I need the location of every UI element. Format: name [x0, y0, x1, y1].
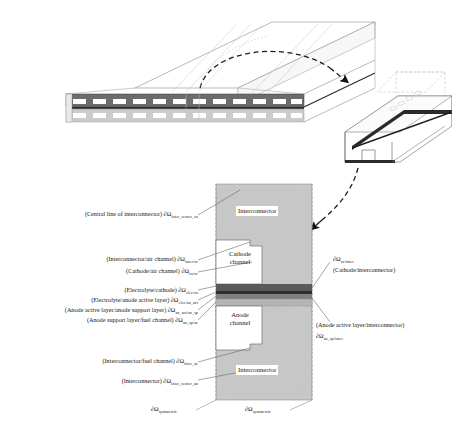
slab-front-left-edge	[66, 88, 135, 94]
label-symbol: ∂Ω	[316, 332, 324, 339]
label-text: (Interconnector/air channel) ∂Ω	[106, 255, 184, 262]
label-subscript: inter_center_an	[171, 381, 198, 386]
boundary-label-ca-inter-symbol: ∂Ωca/inter	[333, 255, 354, 265]
label-text: (Cathode/air channel) ∂Ω	[126, 267, 189, 274]
cross-section-view	[196, 184, 330, 410]
detail-bottom-strip	[345, 160, 395, 163]
label-subscript: ca/inter	[341, 259, 354, 264]
label-subscript: symmetric	[253, 409, 271, 414]
boundary-label-ca-inter-caption: (Cathode/interconnector)	[333, 266, 395, 273]
slab-depth-edge-bottom	[304, 88, 375, 122]
label-text: (Interconnector) ∂Ω	[122, 377, 171, 384]
slab-depth-edge-electrolyte	[304, 73, 375, 107]
label-subscript: inter_ac	[184, 361, 198, 366]
label-symbol: ∂Ω	[333, 255, 341, 262]
boundary-label-ca-cc: (Cathode/air channel) ∂Ωca/cc	[40, 267, 198, 277]
boundary-label-an-sp-inter-caption: (Anode active layer/interconnector)	[316, 321, 404, 328]
anode-channel-line2: channel	[230, 319, 251, 326]
electrolyte-layer	[216, 291, 312, 294]
boundary-label-inter-center-an: (Interconnector) ∂Ωinter_center_an	[60, 377, 198, 387]
boundary-label-an-sp-inter-symbol: ∂Ωan_sp/inter	[316, 332, 343, 342]
slab-left-cap	[66, 94, 72, 122]
label-subscript: inter_center_ca	[171, 214, 198, 219]
label-text: (Central line of interconnector) ∂Ω	[85, 210, 171, 217]
boundary-label-an-sp-ac: (Anode support layer/fuel channel) ∂Ωan_…	[18, 316, 198, 326]
label-subscript: an_act/an_sp	[175, 310, 198, 315]
boundary-label-symmetric-left: ∂Ωsymmetric	[151, 405, 177, 415]
stack-3d-view	[66, 22, 375, 122]
label-subscript: symmetric	[159, 409, 177, 414]
boundary-label-symmetric-right: ∂Ωsymmetric	[245, 405, 271, 415]
unit-cell-3d-detail	[314, 72, 452, 227]
region-label-anode-channel: Anode channel	[219, 311, 261, 327]
label-text: (Anode active layer/anode support layer)…	[65, 306, 176, 313]
label-subscript: inter/cc	[185, 259, 198, 264]
label-subscript: an_sp/ac	[183, 320, 198, 325]
region-label-interconnector-bottom: Interconnector	[236, 365, 278, 375]
label-symbol: ∂Ω	[151, 405, 159, 412]
boundary-label-elec-ca: (Electrolyte/cathode) ∂Ωelec/ca	[28, 286, 198, 296]
label-text: (Electrolyte/anode active layer) ∂Ω	[91, 296, 178, 303]
leader-lines-right	[312, 262, 330, 322]
sofc-figure: Interconnector Cathode channel Anode cha…	[0, 0, 452, 431]
cathode-channel-line1: Cathode	[229, 250, 251, 257]
label-subscript: ca/cc	[189, 271, 198, 276]
label-subscript: elec/an_act	[178, 300, 198, 305]
boundary-label-inter-cc: (Interconnector/air channel) ∂Ωinter/cc	[40, 255, 198, 265]
boundary-label-an-act-an-sp: (Anode active layer/anode support layer)…	[4, 306, 198, 316]
cathode-layer	[216, 284, 312, 291]
boundary-label-inter-ac: (Interconnector/fuel channel) ∂Ωinter_ac	[30, 357, 198, 367]
label-symbol: ∂Ω	[245, 405, 253, 412]
label-text: (Anode support layer/fuel channel) ∂Ω	[87, 316, 183, 323]
anode-channel-line1: Anode	[231, 311, 249, 318]
region-label-interconnector-top: Interconnector	[236, 206, 278, 216]
boundary-label-elec-an-act: (Electrolyte/anode active layer) ∂Ωelec/…	[20, 296, 198, 306]
label-subscript: elec/ca	[186, 290, 198, 295]
cathode-channel-line2: channel	[230, 258, 251, 265]
region-label-cathode-channel: Cathode channel	[219, 250, 261, 266]
callout-arc-bottom	[322, 168, 358, 220]
label-text: (Interconnector/fuel channel) ∂Ω	[102, 357, 184, 364]
detail-construction-box-top	[377, 72, 445, 92]
label-subscript: an_sp/inter	[324, 336, 343, 341]
label-text: (Electrolyte/cathode) ∂Ω	[125, 286, 186, 293]
callout-arrow-bottom	[314, 220, 322, 227]
anode-active-layer	[216, 294, 312, 299]
anode-support-layer	[216, 299, 312, 306]
boundary-label-inter-center-ca: (Central line of interconnector) ∂Ωinter…	[40, 210, 198, 220]
electrolyte-layer-front	[66, 107, 304, 109]
